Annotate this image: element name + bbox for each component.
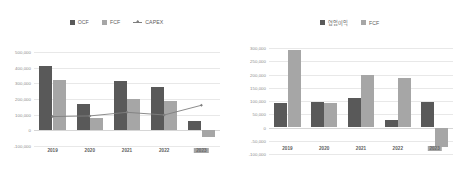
right-chart-x-tick-2019: 2019 bbox=[282, 146, 292, 151]
legend-label: 영업이익 bbox=[328, 19, 348, 26]
line-marker-icon bbox=[133, 20, 142, 25]
bar-group bbox=[379, 48, 416, 154]
right-chart-y-tick-label: 100,000 bbox=[250, 99, 266, 104]
right-chart-plot-area: 300,000250,000200,000150,000100,00050,00… bbox=[269, 48, 453, 154]
legend-label: OCF bbox=[78, 19, 89, 25]
square-swatch-icon bbox=[361, 20, 366, 25]
left-chart-legend-item-CAPEX[interactable]: CAPEX bbox=[133, 19, 163, 25]
right-chart-y-tick-label: -50,000 bbox=[251, 138, 266, 143]
bar-영업이익-2020[interactable] bbox=[311, 102, 324, 128]
right-chart-y-tick-label: -100,000 bbox=[249, 152, 266, 157]
left-chart-y-tick-label: 100,000 bbox=[15, 112, 31, 117]
bar-FCF-2020[interactable] bbox=[324, 103, 337, 127]
right-chart-legend-item-영업이익[interactable]: 영업이익 bbox=[320, 19, 348, 26]
line-marker-2019[interactable] bbox=[51, 115, 54, 118]
right-chart-panel: 영업이익FCF 300,000250,000200,000150,000100,… bbox=[233, 0, 466, 186]
right-chart-bars bbox=[269, 48, 453, 154]
chart-board: OCFFCFCAPEX 500,000400,000300,000200,000… bbox=[0, 0, 466, 186]
right-chart-y-tick-label: 0 bbox=[264, 125, 266, 130]
bar-group bbox=[416, 48, 453, 154]
left-chart-y-tick-label: 500,000 bbox=[15, 50, 31, 55]
right-chart-y-tick-label: 200,000 bbox=[250, 72, 266, 77]
capex-line-svg bbox=[34, 52, 220, 146]
right-chart-y-tick-label: 250,000 bbox=[250, 59, 266, 64]
right-chart-legend: 영업이익FCF bbox=[233, 19, 466, 26]
left-chart-legend-item-OCF[interactable]: OCF bbox=[70, 19, 89, 25]
legend-label: CAPEX bbox=[145, 19, 163, 25]
left-chart-x-tick-2019: 2019 bbox=[47, 148, 57, 153]
left-chart-legend-item-FCF[interactable]: FCF bbox=[102, 19, 120, 25]
bar-영업이익-2022[interactable] bbox=[385, 120, 398, 128]
right-chart-x-tick-2022: 2022 bbox=[393, 146, 403, 151]
line-marker-2021[interactable] bbox=[126, 111, 129, 114]
bar-영업이익-2023[interactable] bbox=[421, 102, 434, 127]
line-marker-2023[interactable] bbox=[200, 104, 203, 107]
line-marker-2022[interactable] bbox=[163, 113, 166, 116]
left-chart-y-tick-label: 400,000 bbox=[15, 65, 31, 70]
bar-group bbox=[306, 48, 343, 154]
right-chart-y-tick-label: 150,000 bbox=[250, 85, 266, 90]
bar-group bbox=[269, 48, 306, 154]
square-swatch-icon bbox=[320, 20, 325, 25]
right-chart-y-tick-label: 50,000 bbox=[253, 112, 266, 117]
right-chart-x-tick-2020: 2020 bbox=[319, 146, 329, 151]
left-chart-x-tick-2023: 2023 bbox=[194, 148, 208, 153]
square-swatch-icon bbox=[70, 20, 75, 25]
bar-FCF-2022[interactable] bbox=[398, 78, 411, 128]
right-chart-x-tick-2023: 2023 bbox=[427, 146, 441, 151]
right-chart-x-tick-2021: 2021 bbox=[356, 146, 366, 151]
left-chart-x-tick-2020: 2020 bbox=[85, 148, 95, 153]
gridline bbox=[269, 154, 453, 155]
left-chart-legend: OCFFCFCAPEX bbox=[0, 19, 233, 25]
right-chart-legend-item-FCF[interactable]: FCF bbox=[361, 20, 379, 26]
gridline bbox=[34, 146, 220, 147]
legend-label: FCF bbox=[110, 19, 120, 25]
left-chart-y-tick-label: 300,000 bbox=[15, 81, 31, 86]
bar-영업이익-2021[interactable] bbox=[348, 98, 361, 128]
right-chart-y-tick-label: 300,000 bbox=[250, 46, 266, 51]
left-chart-plot-area: 500,000400,000300,000200,000100,0000-100… bbox=[34, 52, 220, 146]
bar-FCF-2021[interactable] bbox=[361, 75, 374, 127]
left-chart-y-tick-label: 0 bbox=[29, 128, 31, 133]
legend-label: FCF bbox=[369, 20, 379, 26]
bar-FCF-2023[interactable] bbox=[435, 128, 448, 148]
bar-영업이익-2019[interactable] bbox=[274, 103, 287, 127]
square-swatch-icon bbox=[102, 20, 107, 25]
bar-FCF-2019[interactable] bbox=[288, 50, 301, 127]
left-chart-x-tick-2021: 2021 bbox=[122, 148, 132, 153]
left-chart-y-tick-label: 200,000 bbox=[15, 97, 31, 102]
left-chart-capex-line bbox=[34, 52, 220, 146]
line-marker-2020[interactable] bbox=[88, 114, 91, 117]
left-chart-x-tick-2022: 2022 bbox=[159, 148, 169, 153]
bar-group bbox=[343, 48, 380, 154]
left-chart-y-tick-label: -100,000 bbox=[14, 144, 31, 149]
left-chart-panel: OCFFCFCAPEX 500,000400,000300,000200,000… bbox=[0, 0, 233, 186]
